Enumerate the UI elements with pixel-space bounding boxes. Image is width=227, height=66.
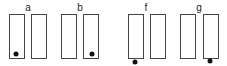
right-box [203,14,219,59]
dot-marker [133,60,138,65]
dot-marker [90,52,95,57]
left-box [128,14,144,59]
group-label-a: a [25,3,31,13]
right-box [150,14,166,59]
left-box [180,14,196,59]
group-label-f: f [145,3,148,13]
left-box [61,14,77,59]
group-label-g: g [196,3,202,13]
group-label-b: b [77,3,83,13]
right-box [31,14,47,59]
dot-marker [208,59,213,64]
dot-marker [14,52,19,57]
